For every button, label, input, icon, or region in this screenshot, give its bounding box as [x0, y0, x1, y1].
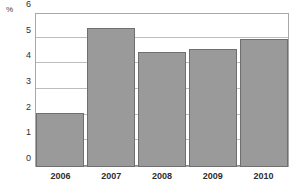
bar-2010: [240, 39, 288, 167]
y-tick-label-3: 3: [5, 77, 31, 86]
bar-slot-2006: [36, 13, 84, 167]
y-tick-label-1: 1: [5, 128, 31, 137]
bar-2008: [138, 52, 186, 168]
bar-slot-2007: [87, 13, 135, 167]
y-tick-label-0: 0: [5, 154, 31, 163]
bar-2009: [189, 49, 237, 167]
bar-slot-2008: [138, 13, 186, 167]
bar-slot-2009: [189, 13, 237, 167]
y-tick-label-2: 2: [5, 103, 31, 112]
y-tick-label-5: 5: [5, 26, 31, 35]
y-tick-label-4: 4: [5, 51, 31, 60]
bar-2006: [36, 113, 84, 167]
x-label-slot-2008: 2008: [138, 169, 186, 185]
y-axis-tick-labels: 0123456: [0, 13, 31, 167]
bar-chart: % 0123456 20062007200820092010: [0, 0, 303, 191]
x-tick-label-2007: 2007: [87, 169, 135, 183]
x-tick-label-2010: 2010: [240, 169, 288, 183]
bar-slot-2010: [240, 13, 288, 167]
x-label-slot-2009: 2009: [189, 169, 237, 185]
y-tick-label-6: 6: [5, 0, 31, 9]
bars-group: [35, 13, 289, 167]
x-tick-label-2006: 2006: [36, 169, 84, 183]
x-label-slot-2007: 2007: [87, 169, 135, 185]
x-tick-label-2008: 2008: [138, 169, 186, 183]
x-axis-tick-labels: 20062007200820092010: [35, 169, 289, 185]
bar-2007: [87, 28, 135, 167]
x-tick-label-2009: 2009: [189, 169, 237, 183]
x-label-slot-2010: 2010: [240, 169, 288, 185]
x-label-slot-2006: 2006: [36, 169, 84, 185]
